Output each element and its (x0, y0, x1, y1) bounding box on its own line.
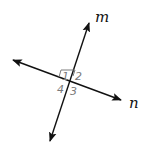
angle-label-1: 1 (62, 70, 69, 83)
angle-label-3: 3 (70, 85, 77, 98)
angle-label-4: 4 (57, 83, 64, 96)
line-label-m: m (95, 8, 109, 26)
intersecting-lines-diagram: 1 2 3 4 m n (0, 0, 148, 156)
line-label-n: n (129, 94, 139, 112)
diagram-canvas: 1 2 3 4 m n (0, 0, 148, 156)
angle-label-2: 2 (75, 70, 82, 83)
line-m (50, 23, 89, 141)
